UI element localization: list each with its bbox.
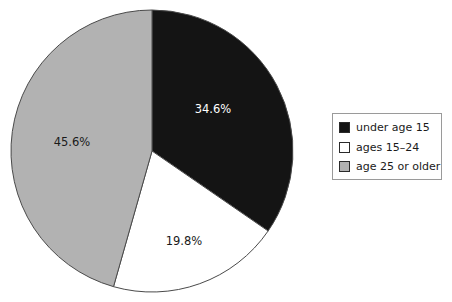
slice-label-ages-15-24: 19.8% <box>166 234 203 248</box>
pie-slices <box>11 10 293 292</box>
legend-swatch-icon-ages-15-24 <box>339 142 350 153</box>
pie-chart-figure: 34.6% 19.8% 45.6% under age 15 ages 15–2… <box>0 0 452 302</box>
chart-legend: under age 15 ages 15–24 age 25 or older <box>332 113 442 180</box>
legend-swatch-icon-under-age-15 <box>339 122 350 133</box>
legend-item-ages-15-24: ages 15–24 <box>339 138 437 157</box>
legend-item-age-25-or-older: age 25 or older <box>339 157 437 176</box>
slice-label-age-25-or-older: 45.6% <box>54 135 91 149</box>
legend-item-under-age-15: under age 15 <box>339 118 437 137</box>
legend-label-ages-15-24: ages 15–24 <box>356 142 419 153</box>
legend-label-age-25-or-older: age 25 or older <box>356 161 440 172</box>
legend-label-under-age-15: under age 15 <box>356 122 430 133</box>
legend-swatch-icon-age-25-or-older <box>339 161 350 172</box>
slice-label-under-age-15: 34.6% <box>195 102 232 116</box>
